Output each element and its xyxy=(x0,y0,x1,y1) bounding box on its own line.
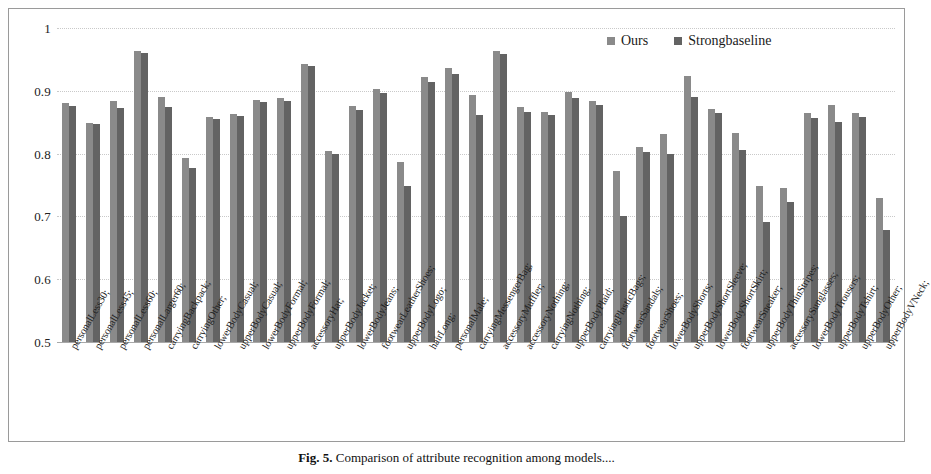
legend-swatch-icon xyxy=(607,37,615,45)
y-tick-label: 1 xyxy=(44,22,51,35)
chart-frame: 10.90.80.70.60.5 OursStrongbaseline pers… xyxy=(8,8,905,442)
bar-strongbaseline xyxy=(883,230,890,342)
bar-group xyxy=(57,28,81,342)
chart-legend: OursStrongbaseline xyxy=(607,33,771,49)
bar-ours xyxy=(62,103,69,342)
legend-label: Ours xyxy=(621,33,648,49)
y-tick-label: 0.5 xyxy=(34,336,51,349)
y-tick-label: 0.9 xyxy=(34,84,51,97)
y-tick-label: 0.6 xyxy=(34,273,51,286)
figure-caption: Fig. 5. Comparison of attribute recognit… xyxy=(0,450,913,466)
legend-item: Strongbaseline xyxy=(674,33,771,49)
bar-ours xyxy=(493,51,500,342)
figure-label: Fig. 5. xyxy=(298,450,332,465)
bar-group xyxy=(464,28,488,342)
bar-strongbaseline xyxy=(452,74,459,342)
legend-item: Ours xyxy=(607,33,648,49)
bar-ours xyxy=(301,64,308,342)
y-tick-label: 0.7 xyxy=(34,210,51,223)
legend-label: Strongbaseline xyxy=(688,33,771,49)
bar-strongbaseline xyxy=(69,106,76,342)
y-tick-label: 0.8 xyxy=(34,147,51,160)
bar-ours xyxy=(684,76,691,342)
caption-text: Comparison of attribute recognition amon… xyxy=(336,450,615,465)
legend-swatch-icon xyxy=(674,37,682,45)
bar-ours xyxy=(134,51,141,342)
bar-strongbaseline xyxy=(763,222,770,342)
bar-ours xyxy=(445,68,452,342)
